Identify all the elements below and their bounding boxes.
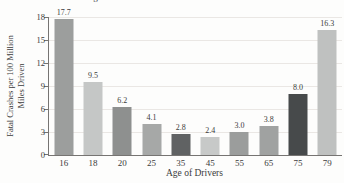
plot-area: 036912151817.7169.5186.2204.1252.8352.44… [48, 17, 342, 156]
bar [54, 19, 73, 155]
chart-title: Age of United States Drivers and Fatal C… [0, 0, 344, 3]
y-axis-title-line-1: Fatal Crashes per 100 Million [5, 1, 16, 171]
bar-value-label: 2.4 [205, 126, 215, 135]
bar-slot: 3.055 [225, 17, 254, 155]
bar-value-label: 3.0 [234, 121, 244, 130]
bar-slot: 16.379 [313, 17, 342, 155]
bar-value-label: 2.8 [176, 123, 186, 132]
bar [259, 126, 278, 155]
y-tick-label: 12 [23, 58, 45, 68]
bar-slot: 8.075 [283, 17, 312, 155]
x-tick-label: 75 [283, 158, 312, 168]
y-tick-label: 15 [23, 35, 45, 45]
x-tick-label: 35 [166, 158, 195, 168]
bar-value-label: 4.1 [147, 113, 157, 122]
bar [289, 94, 308, 155]
fatal-crashes-bar-chart: Age of United States Drivers and Fatal C… [0, 0, 344, 183]
x-tick-label: 25 [137, 158, 166, 168]
y-tick-label: 3 [23, 127, 45, 137]
x-axis-title: Age of Drivers [48, 168, 341, 178]
bar [171, 134, 190, 155]
bar [318, 30, 337, 155]
x-tick-label: 20 [108, 158, 137, 168]
bar-slot: 2.445 [196, 17, 225, 155]
x-tick-label: 18 [78, 158, 107, 168]
y-tick-label: 0 [23, 150, 45, 160]
bar-value-label: 8.0 [293, 83, 303, 92]
bar [113, 107, 132, 155]
bar-value-label: 9.5 [88, 71, 98, 80]
bar-slot: 3.865 [254, 17, 283, 155]
x-tick-label: 16 [49, 158, 78, 168]
bar-slot: 2.835 [166, 17, 195, 155]
bar-value-label: 16.3 [320, 19, 334, 28]
x-tick-label: 45 [196, 158, 225, 168]
bar-value-label: 3.8 [264, 115, 274, 124]
bar-value-label: 17.7 [57, 8, 71, 17]
x-tick-label: 79 [313, 158, 342, 168]
bar-slot: 17.716 [49, 17, 78, 155]
y-tick-label: 6 [23, 104, 45, 114]
bar [201, 137, 220, 155]
bar [83, 82, 102, 155]
bar [230, 132, 249, 155]
x-tick-label: 55 [225, 158, 254, 168]
bar-slot: 9.518 [78, 17, 107, 155]
bar-slot: 6.220 [108, 17, 137, 155]
bar-slot: 4.125 [137, 17, 166, 155]
bar [142, 124, 161, 155]
bar-value-label: 6.2 [117, 96, 127, 105]
x-tick-label: 65 [254, 158, 283, 168]
y-tick-label: 18 [23, 12, 45, 22]
y-tick-label: 9 [23, 81, 45, 91]
